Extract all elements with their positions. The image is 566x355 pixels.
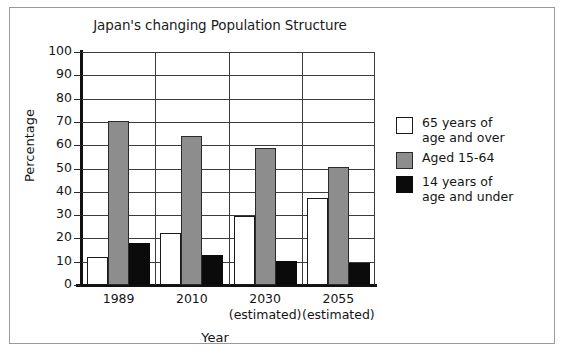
y-axis-tick-label: 100 [44, 45, 72, 58]
x-axis-tick-label: 2030 [229, 291, 302, 306]
plot-area [82, 52, 375, 285]
bar [202, 255, 223, 285]
bar [307, 198, 328, 285]
legend-item: Aged 15-64 [396, 151, 546, 169]
y-axis-tick-label: 80 [44, 92, 72, 105]
y-axis-title: Percentage [22, 86, 37, 206]
gridline-group-separator [229, 52, 230, 285]
y-axis-tick [74, 169, 81, 170]
legend-label: 65 years of age and over [422, 116, 505, 145]
legend-swatch-black [396, 176, 413, 193]
x-axis-tick-label: 2055 [302, 291, 375, 306]
y-axis-tick [74, 99, 81, 100]
y-axis-tick [74, 122, 81, 123]
bar [255, 148, 276, 285]
y-axis-tick-label: 50 [44, 162, 72, 175]
y-axis-tick-label: 10 [44, 255, 72, 268]
y-axis-tick-label: 40 [44, 185, 72, 198]
bar [129, 243, 150, 285]
y-axis-tick-label: 70 [44, 115, 72, 128]
bar [87, 257, 108, 285]
bar [276, 261, 297, 285]
y-axis-tick [74, 145, 81, 146]
y-axis-tick-label: 30 [44, 208, 72, 221]
chart-title: Japan's changing Population Structure [60, 17, 380, 33]
y-axis-tick-label: 90 [44, 68, 72, 81]
y-axis-tick [74, 192, 81, 193]
bar [181, 136, 202, 285]
legend-item: 65 years of age and over [396, 116, 546, 145]
bar-group-2055 [307, 52, 370, 285]
y-axis-tick [74, 238, 81, 239]
y-axis-tick-label: 60 [44, 138, 72, 151]
legend-item: 14 years of age and under [396, 175, 546, 204]
x-axis-tick-label: 1989 [82, 291, 155, 306]
y-axis-tick [74, 52, 81, 53]
y-axis-tick [74, 285, 81, 286]
bar-group-2030 [234, 52, 297, 285]
y-axis-tick-labels: 1009080706050403020100 [42, 0, 72, 355]
x-axis-tick-label: 2010 [155, 291, 228, 306]
bar-group-1989 [87, 52, 150, 285]
bar [234, 216, 255, 285]
y-axis-tick-label: 0 [44, 278, 72, 291]
bar [108, 121, 129, 285]
y-axis-tick [74, 215, 81, 216]
gridline-group-separator [155, 52, 156, 285]
x-axis-tick-sublabel: (estimated) [296, 307, 381, 322]
bar [160, 233, 181, 285]
legend-swatch-white [396, 117, 413, 134]
bar [328, 167, 349, 285]
figure-canvas: Japan's changing Population Structure 10… [0, 0, 566, 355]
bar-group-2010 [160, 52, 223, 285]
y-axis-tick-label: 20 [44, 231, 72, 244]
x-axis-title: Year [175, 330, 255, 345]
y-axis-tick [74, 75, 81, 76]
gridline-group-separator [302, 52, 303, 285]
bar [349, 263, 370, 285]
legend-swatch-gray [396, 152, 413, 169]
legend-label: Aged 15-64 [422, 151, 494, 166]
chart-legend: 65 years of age and overAged 15-6414 yea… [396, 116, 546, 210]
y-axis-tick [74, 262, 81, 263]
legend-label: 14 years of age and under [422, 175, 513, 204]
